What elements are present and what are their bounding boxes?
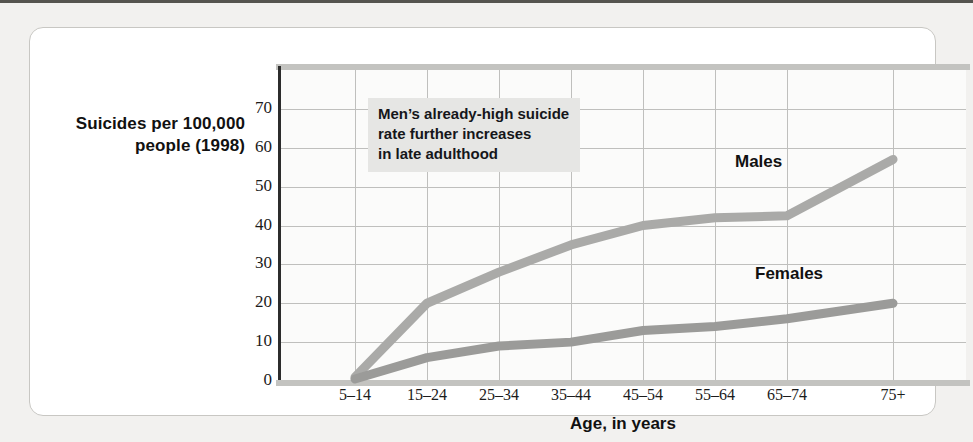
x-tick-label-4: 45–54	[623, 386, 663, 404]
x-tick-label-1: 15–24	[407, 386, 447, 404]
y-tick-label-10: 10	[228, 331, 272, 351]
y-tick-label-20: 20	[228, 292, 272, 312]
x-axis-title: Age, in years	[280, 414, 966, 434]
y-tick-label-40: 40	[228, 215, 272, 235]
page-top-edge	[0, 0, 973, 3]
series-line-females	[355, 303, 893, 379]
y-tick-label-70: 70	[228, 98, 272, 118]
x-tick-label-2: 25–34	[479, 386, 519, 404]
y-tick-label-30: 30	[228, 253, 272, 273]
y-tick-label-50: 50	[228, 176, 272, 196]
chart-annotation: Men’s already-high suicide rate further …	[368, 98, 580, 172]
x-tick-label-3: 35–44	[551, 386, 591, 404]
x-tick-label-5: 55–64	[695, 386, 735, 404]
x-tick-label-0: 5–14	[339, 386, 371, 404]
y-tick-label-60: 60	[228, 137, 272, 157]
x-tick-label-6: 65–74	[767, 386, 807, 404]
x-tick-label-7: 75+	[880, 386, 905, 404]
series-label-females: Females	[755, 264, 823, 284]
figure-page: Suicides per 100,000 people (1998) 01020…	[0, 0, 973, 442]
y-axis-title: Suicides per 100,000 people (1998)	[70, 113, 245, 157]
y-tick-label-0: 0	[228, 370, 272, 390]
x-axis-tick-labels: 5–1415–2425–3435–4445–5455–6465–7475+	[280, 386, 970, 412]
y-axis-tick-labels: 010203040506070	[226, 70, 272, 381]
figure-card: Suicides per 100,000 people (1998) 01020…	[29, 27, 936, 416]
series-label-males: Males	[735, 152, 782, 172]
plot-area: Males Females Men’s already-high suicide…	[280, 70, 966, 381]
